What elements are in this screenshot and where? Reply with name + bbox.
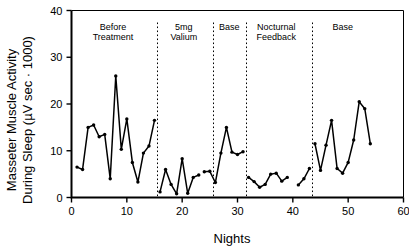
data-point: [352, 138, 355, 141]
x-tick-label: 40: [287, 205, 299, 217]
data-point: [103, 133, 106, 136]
data-point: [247, 176, 250, 179]
segment-label-3: Base: [219, 22, 240, 32]
data-point: [109, 177, 112, 180]
data-point: [286, 176, 289, 179]
series-line: [77, 76, 154, 182]
data-point: [308, 167, 311, 170]
data-point: [192, 176, 195, 179]
x-axis-ticks: 0102030405060: [68, 198, 409, 217]
data-point: [280, 179, 283, 182]
data-point: [175, 192, 178, 195]
data-point: [214, 181, 217, 184]
data-point: [230, 150, 233, 153]
data-point: [75, 165, 78, 168]
y-tick-label: 20: [50, 98, 62, 110]
series-5: [313, 100, 372, 175]
data-point: [241, 150, 244, 153]
data-point: [302, 177, 305, 180]
data-series-group: [75, 74, 372, 195]
series-line: [315, 102, 370, 174]
data-point: [275, 171, 278, 174]
y-axis-ticks: 010203040: [50, 5, 71, 204]
y-axis-title-line1: Masseter Muscle Activity: [4, 48, 19, 191]
x-tick-label: 60: [397, 205, 409, 217]
segment-label-2: 5mg: [175, 22, 193, 32]
data-point: [153, 119, 156, 122]
data-point: [97, 135, 100, 138]
data-point: [236, 153, 239, 156]
data-point: [363, 107, 366, 110]
data-point: [158, 190, 161, 193]
series-line: [298, 169, 309, 185]
masseter-activity-line-chart: 0102030405060 010203040 BeforeTreatment5…: [0, 0, 409, 252]
data-point: [346, 161, 349, 164]
data-point: [358, 100, 361, 103]
data-point: [197, 173, 200, 176]
data-point: [313, 142, 316, 145]
segment-label-2-line2: Valium: [170, 32, 197, 42]
data-point: [86, 126, 89, 129]
data-point: [92, 123, 95, 126]
data-point: [269, 172, 272, 175]
data-point: [147, 144, 150, 147]
y-tick-label: 0: [56, 192, 62, 204]
segment-label-5: Base: [332, 22, 353, 32]
data-point: [297, 183, 300, 186]
data-point: [369, 142, 372, 145]
series-1: [75, 74, 156, 184]
data-point: [120, 148, 123, 151]
x-tick-label: 10: [121, 205, 133, 217]
data-point: [180, 157, 183, 160]
x-axis-title: Nights: [214, 231, 251, 246]
data-point: [164, 168, 167, 171]
segment-label-1: Before: [100, 22, 127, 32]
data-point: [136, 180, 139, 183]
data-point: [252, 180, 255, 183]
segment-labels: BeforeTreatment5mgValiumBaseNocturnalFee…: [93, 22, 353, 42]
data-point: [81, 168, 84, 171]
data-point: [131, 161, 134, 164]
data-point: [335, 167, 338, 170]
data-point: [114, 74, 117, 77]
x-tick-label: 20: [176, 205, 188, 217]
series-2: [158, 157, 200, 195]
data-point: [324, 143, 327, 146]
y-tick-label: 30: [50, 51, 62, 63]
data-point: [208, 170, 211, 173]
data-point: [341, 171, 344, 174]
data-point: [258, 186, 261, 189]
data-point: [225, 126, 228, 129]
data-point: [125, 117, 128, 120]
x-tick-label: 0: [68, 205, 74, 217]
series-4: [247, 167, 311, 189]
data-point: [203, 170, 206, 173]
x-tick-label: 30: [231, 205, 243, 217]
data-point: [186, 192, 189, 195]
data-point: [169, 183, 172, 186]
y-tick-label: 10: [50, 145, 62, 157]
chart-container: 0102030405060 010203040 BeforeTreatment5…: [0, 0, 409, 252]
data-point: [319, 169, 322, 172]
data-point: [142, 151, 145, 154]
series-3: [203, 126, 245, 185]
data-point: [330, 119, 333, 122]
x-tick-label: 50: [342, 205, 354, 217]
data-point: [219, 151, 222, 154]
segment-label-1-line2: Treatment: [93, 32, 134, 42]
data-point: [263, 183, 266, 186]
y-tick-label: 40: [50, 5, 62, 17]
segment-label-4-line2: Feedback: [256, 32, 296, 42]
segment-label-4: Nocturnal: [257, 22, 296, 32]
y-axis-title-line2: During Sleep (µV sec · 1000): [20, 36, 35, 204]
